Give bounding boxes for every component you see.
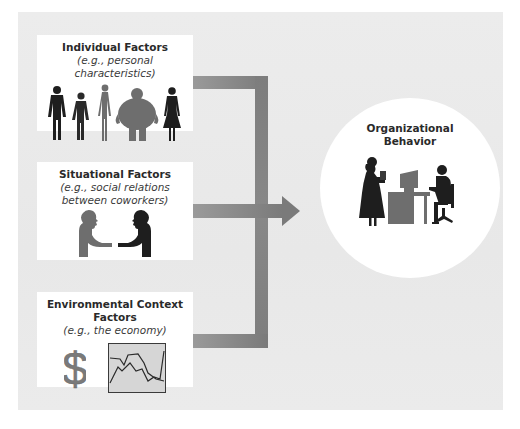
environmental-factors-title: Environmental Context Factors [37,298,193,324]
dollar-sign-icon: $ [64,343,86,393]
handshake-silhouettes-icon [75,209,155,257]
individual-factors-title: Individual Factors [37,41,193,54]
situational-factors-box: Situational Factors (e.g., social relati… [37,162,193,260]
organizational-behavior-title-line1: Organizational [320,122,500,135]
connector-environmental [193,334,268,348]
situational-factors-subtitle-line1: (e.g., social relations [37,181,193,194]
organizational-behavior-title-line2: Behavior [320,135,500,148]
environmental-factors-subtitle: (e.g., the economy) [37,324,193,337]
people-silhouettes-icon [45,84,185,142]
arrowhead-icon [282,196,300,226]
office-workers-silhouette-icon [358,156,462,228]
environmental-factors-box: Environmental Context Factors (e.g., the… [37,292,193,387]
situational-factors-subtitle-line2: between coworkers) [37,194,193,207]
situational-factors-title: Situational Factors [37,168,193,181]
individual-factors-subtitle: (e.g., personal characteristics) [37,54,193,80]
svg-text:$: $ [64,343,86,393]
organizational-behavior-circle: Organizational Behavior [320,98,500,278]
connector-situational [193,204,283,218]
line-chart-icon [108,343,166,393]
individual-factors-box: Individual Factors (e.g., personal chara… [37,35,193,131]
